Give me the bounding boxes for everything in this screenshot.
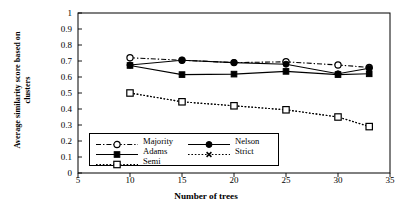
data-point-marker <box>207 152 212 157</box>
data-point-marker <box>179 57 185 63</box>
data-point-marker <box>283 107 289 113</box>
data-point-marker <box>114 161 120 167</box>
data-point-marker <box>283 69 289 75</box>
series-markers-strict <box>128 91 372 129</box>
legend-item-strict: Strict <box>186 146 254 157</box>
data-point-marker <box>366 71 372 77</box>
x-tick-label: 5 <box>76 176 81 185</box>
x-tick-label: 10 <box>126 176 135 185</box>
legend-swatch-strict <box>186 146 232 157</box>
legend-label: Semi <box>143 157 161 166</box>
data-point-marker <box>127 90 133 96</box>
data-point-marker <box>127 62 133 68</box>
data-point-marker <box>179 99 185 105</box>
series-markers-semi <box>127 90 373 130</box>
data-point-marker <box>366 123 372 129</box>
legend-label: Nelson <box>235 137 259 146</box>
chart-figure: Average similarity score based on cluste… <box>0 0 412 215</box>
legend-label: Adams <box>143 147 167 156</box>
series-line-strict <box>130 93 369 127</box>
x-tick-label: 30 <box>334 176 343 185</box>
legend-item-semi: Semi <box>94 156 161 167</box>
x-tick-label: 15 <box>178 176 187 185</box>
legend-label: Majority <box>143 137 173 146</box>
legend-swatch-semi <box>94 156 140 167</box>
data-point-marker <box>335 62 341 68</box>
x-axis-title: Number of trees <box>0 191 412 201</box>
data-point-marker <box>231 103 237 109</box>
x-tick-label: 20 <box>230 176 239 185</box>
data-point-marker <box>366 65 372 71</box>
x-tick-label: 25 <box>282 176 291 185</box>
data-point-marker <box>179 72 185 78</box>
legend-label: Strict <box>235 147 254 156</box>
data-point-marker <box>127 55 133 61</box>
data-point-marker <box>231 71 237 77</box>
legend: MajorityNelsonAdamsStrictSemi <box>89 133 279 166</box>
data-point-marker <box>283 61 289 67</box>
x-axis-ticks: 5101520253035 <box>0 176 412 190</box>
data-point-marker <box>231 60 237 66</box>
data-point-marker <box>335 71 341 77</box>
data-point-marker <box>335 114 341 120</box>
series-line-semi <box>130 93 369 127</box>
x-tick-label: 35 <box>386 176 395 185</box>
